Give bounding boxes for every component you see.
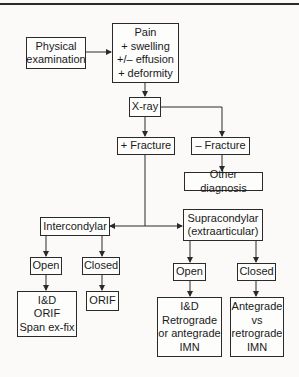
positive-fracture-box: + Fracture (117, 137, 175, 155)
other-diagnosis-box: Other diagnosis (184, 172, 263, 191)
supracondylar-box: Supracondylar (extraarticular) (183, 209, 263, 241)
supracondylar-closed-treatment-box: Antegrade vs retrograde IMN (230, 297, 284, 357)
intercondylar-open-box: Open (30, 257, 62, 275)
physical-exam-box: Physical examination (26, 37, 86, 69)
xray-box: X-ray (129, 97, 161, 117)
intercondylar-box: Intercondylar (40, 217, 110, 236)
intercondylar-closed-treatment-box: ORIF (86, 291, 119, 311)
intercondylar-open-treatment-box: I&D ORIF Span ex-fix (17, 291, 77, 337)
supracondylar-open-box: Open (173, 263, 206, 281)
symptoms-box: Pain + swelling +/– effusion + deformity (112, 23, 179, 83)
negative-fracture-box: – Fracture (191, 137, 250, 155)
supracondylar-open-treatment-box: I&D Retrograde or antegrade IMN (157, 297, 222, 357)
supracondylar-closed-box: Closed (237, 263, 276, 281)
intercondylar-closed-box: Closed (82, 257, 120, 275)
